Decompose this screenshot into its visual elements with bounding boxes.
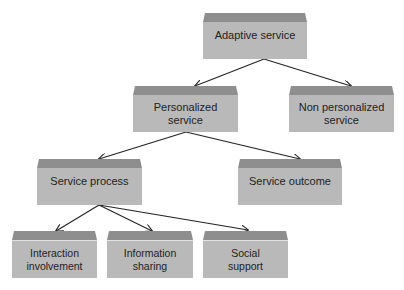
service-hierarchy-diagram: Adaptive service Personalized service No… [0, 0, 404, 290]
node-label: Social support [217, 247, 275, 273]
arrow-personalized-to-service-outcome [186, 132, 300, 159]
box-bevel [289, 86, 394, 95]
node-service-process: Service process [37, 159, 142, 205]
box-face: Information sharing [107, 240, 193, 278]
node-label: Information sharing [111, 247, 189, 273]
arrow-process-to-interaction [56, 205, 99, 231]
node-social-support: Social support [203, 231, 288, 278]
node-information-sharing: Information sharing [107, 231, 193, 278]
node-adaptive-service: Adaptive service [203, 13, 307, 59]
box-bevel [133, 86, 238, 95]
node-label: Interaction involvement [16, 247, 94, 273]
arrow-adaptive-to-non-personalized [264, 59, 351, 86]
box-bevel [12, 231, 97, 240]
box-face: Non personalized service [289, 95, 394, 132]
node-interaction-involvement: Interaction involvement [12, 231, 97, 278]
box-face: Service outcome [238, 168, 342, 205]
box-face: Social support [203, 240, 288, 278]
node-label: Adaptive service [211, 29, 300, 42]
box-face: Interaction involvement [12, 240, 97, 278]
box-bevel [203, 231, 288, 240]
node-service-outcome: Service outcome [238, 159, 342, 205]
box-bevel [238, 159, 342, 168]
box-face: Service process [37, 168, 142, 205]
node-personalized-service: Personalized service [133, 86, 238, 132]
node-label: Service outcome [245, 175, 335, 188]
node-label: Service process [46, 175, 132, 188]
arrow-process-to-social [99, 205, 248, 230]
arrow-personalized-to-service-process [99, 132, 186, 159]
node-non-personalized-service: Non personalized service [289, 86, 394, 132]
box-face: Personalized service [133, 95, 238, 132]
box-face: Adaptive service [203, 22, 307, 59]
node-label: Personalized service [142, 101, 230, 127]
box-bevel [203, 13, 307, 22]
arrow-adaptive-to-personalized [195, 59, 264, 86]
box-bevel [107, 231, 193, 240]
node-label: Non personalized service [292, 101, 392, 127]
box-bevel [37, 159, 142, 168]
